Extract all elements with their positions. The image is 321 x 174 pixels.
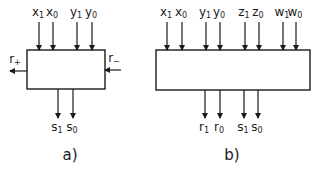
caption-a: a) xyxy=(62,146,77,164)
output-label-s1: s1 xyxy=(237,120,248,135)
caption-b: b) xyxy=(224,146,239,164)
input-label-x1: x1 xyxy=(160,5,172,20)
input-label-w0: w0 xyxy=(288,5,303,20)
output-label-s0: s0 xyxy=(66,120,77,135)
side-label-r-minus: r− xyxy=(108,51,120,66)
input-label-y1: y1 xyxy=(70,5,82,20)
block-box xyxy=(27,50,105,89)
output-label-r1: r1 xyxy=(199,120,209,135)
side-label-r-plus: r+ xyxy=(9,52,21,67)
block-diagram-a: x1x0y1y0s1s0r+r−a) xyxy=(9,5,121,164)
output-label-r0: r0 xyxy=(214,120,224,135)
output-label-s1: s1 xyxy=(51,120,62,135)
input-label-y0: y0 xyxy=(85,5,97,20)
output-label-s0: s0 xyxy=(251,120,262,135)
input-label-x0: x0 xyxy=(175,5,187,20)
input-label-z1: z1 xyxy=(238,5,249,20)
input-label-x1: x1 xyxy=(32,5,44,20)
block-diagram-b: x1x0y1y0z1z0w1w0r1r0s1s0b) xyxy=(156,5,310,164)
input-label-z0: z0 xyxy=(252,5,263,20)
input-label-x0: x0 xyxy=(46,5,58,20)
input-label-y0: y0 xyxy=(213,5,225,20)
block-box xyxy=(156,50,310,90)
input-label-y1: y1 xyxy=(199,5,211,20)
diagram-canvas: x1x0y1y0s1s0r+r−a)x1x0y1y0z1z0w1w0r1r0s1… xyxy=(0,0,321,174)
